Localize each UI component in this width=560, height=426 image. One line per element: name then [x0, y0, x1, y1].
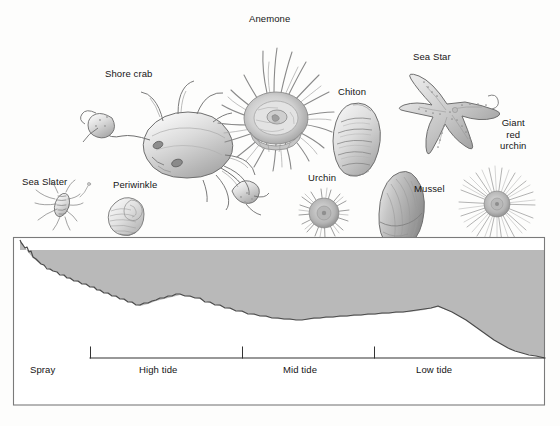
label-chiton: Chiton: [338, 86, 366, 98]
label-giant-red-urchin: Giant red urchin: [500, 117, 526, 152]
zone-label-low-tide: Low tide: [416, 364, 452, 375]
label-urchin: Urchin: [308, 172, 336, 184]
label-sea-slater: Sea Slater: [22, 176, 67, 188]
label-mussel: Mussel: [414, 183, 445, 195]
label-shore-crab: Shore crab: [105, 68, 152, 80]
zone-label-high-tide: High tide: [139, 364, 177, 375]
zone-label-spray: Spray: [30, 364, 55, 375]
zone-label-mid-tide: Mid tide: [283, 364, 317, 375]
intertidal-zonation-figure: Sea Slater Periwinkle Shore crab Anemone…: [0, 0, 560, 426]
label-periwinkle: Periwinkle: [113, 179, 157, 191]
shore-profile-layer: [0, 0, 560, 426]
label-anemone: Anemone: [249, 13, 290, 25]
label-sea-star: Sea Star: [413, 51, 451, 63]
